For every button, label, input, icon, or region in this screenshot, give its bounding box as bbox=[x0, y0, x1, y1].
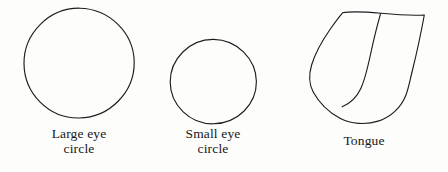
small-eye-circle-shape bbox=[170, 39, 256, 123]
tongue-median-line bbox=[342, 14, 380, 107]
label-large-eye-circle: Large eye circle bbox=[19, 127, 139, 156]
shape-diagram: Large eye circle Small eye circle Tongue bbox=[0, 0, 448, 172]
large-eye-circle-shape bbox=[24, 8, 134, 118]
label-small-eye-circle: Small eye circle bbox=[155, 127, 271, 156]
label-tongue: Tongue bbox=[305, 134, 423, 149]
